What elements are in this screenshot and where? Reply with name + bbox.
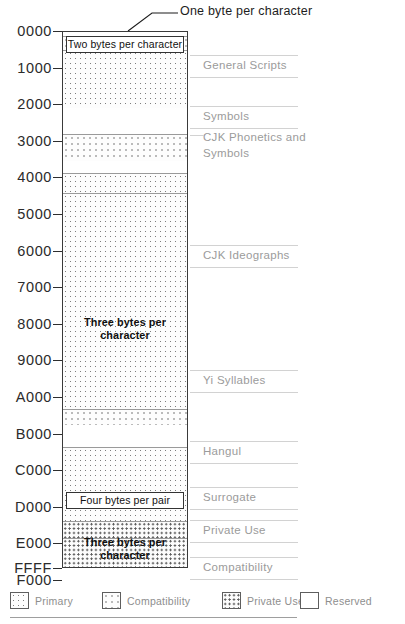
axis-tick-mark-C000 [53,470,62,471]
legend-label-private-use: Private Use [247,595,304,607]
region-leader-general-scripts-1 [190,77,298,78]
band-cjk-phonetics [63,173,187,193]
encoding-label-two-bytes: Two bytes per character [66,36,184,53]
band-yi-syllables [63,409,187,425]
legend: PrimaryCompatibilityPrivate UseReserved [10,592,400,614]
region-leader-yi-syllables-0 [190,370,298,371]
region-label-symbols: Symbols [203,109,249,125]
region-leader-hangul-1 [190,463,298,464]
axis-tick-mark-E000 [53,543,62,544]
region-leader-compatibility-1 [190,579,298,580]
encoding-label-three-bytes-main: Three bytes per character [62,316,188,341]
axis-tick-label-2000: 2000 [4,97,52,112]
band-reserved-1 [63,108,187,134]
region-label-cjk-phonetics: CJK Phonetics and Symbols [203,130,306,161]
legend-swatch-primary [10,592,29,609]
callout-one-byte-label: One byte per character [180,4,312,18]
axis-tick-label-E000: E000 [4,536,52,551]
band-hangul [63,447,187,521]
region-label-hangul: Hangul [203,444,241,460]
axis-tick-label-8000: 8000 [4,317,52,332]
axis-tick-label-3000: 3000 [4,134,52,149]
region-label-private-use: Private Use [203,523,266,539]
region-leader-yi-syllables-1 [190,392,298,393]
band-reserved-3 [63,425,187,447]
legend-item-primary: Primary [10,592,73,609]
region-leader-symbols-1 [190,128,298,129]
legend-item-private-use: Private Use [222,592,304,609]
legend-item-reserved: Reserved [300,592,372,609]
encoding-label-four-bytes-pair: Four bytes per pair [66,492,184,509]
axis-tick-label-B000: B000 [4,426,52,441]
region-leader-general-scripts-0 [190,55,298,56]
axis-tick-mark-D000 [53,507,62,508]
axis-tick-label-D000: D000 [4,500,52,515]
band-reserved-2 [63,161,187,173]
legend-divider [10,617,297,618]
axis-tick-label-C000: C000 [4,463,52,478]
encoding-label-three-bytes-private: Three bytes per character [62,536,188,561]
axis-tick-mark-3000 [53,141,62,142]
legend-swatch-compatibility [102,592,121,609]
axis-tick-label-7000: 7000 [4,280,52,295]
axis-tick-label-6000: 6000 [4,243,52,258]
region-leader-surrogate-1 [190,509,298,510]
region-leader-cjk-phonetics-0 [190,135,204,136]
axis-tick-label-4000: 4000 [4,170,52,185]
legend-item-compatibility: Compatibility [102,592,190,609]
axis-tick-label-FFFF: FFFF [4,561,52,576]
region-label-cjk-ideographs: CJK Ideographs [203,248,290,264]
legend-label-reserved: Reserved [325,595,372,607]
axis-tick-mark-A000 [53,397,62,398]
band-cjk-ideographs [63,193,187,409]
axis-tick-mark-8000 [53,324,62,325]
region-leader-cjk-ideographs-0 [190,245,298,246]
axis-tick-mark-F000 [53,580,62,581]
legend-swatch-reserved [300,592,319,609]
codespace-column [62,31,188,568]
axis-tick-mark-6000 [53,251,62,252]
axis-tick-mark-9000 [53,360,62,361]
region-label-surrogate: Surrogate [203,490,256,506]
region-leader-symbols-0 [190,106,298,107]
region-label-yi-syllables: Yi Syllables [203,373,266,389]
axis-tick-mark-0000 [53,31,62,32]
legend-label-primary: Primary [35,595,73,607]
region-leader-private-use-0 [190,520,298,521]
region-leader-compatibility-0 [190,557,298,558]
axis-tick-mark-FFFF [53,568,62,569]
legend-label-compatibility: Compatibility [127,595,190,607]
region-leader-cjk-ideographs-1 [190,267,298,268]
region-leader-private-use-1 [190,542,298,543]
region-leader-surrogate-0 [190,487,298,488]
axis-tick-label-0000: 0000 [4,24,52,39]
diagram-canvas: One byte per character 00001000200030004… [0,0,405,624]
band-general-scripts [63,50,187,108]
axis-tick-mark-7000 [53,287,62,288]
band-symbols [63,134,187,161]
region-leader-hangul-0 [190,441,298,442]
axis-tick-label-1000: 1000 [4,60,52,75]
axis-tick-mark-B000 [53,434,62,435]
axis-tick-label-A000: A000 [4,390,52,405]
axis-tick-mark-5000 [53,214,62,215]
region-label-compatibility: Compatibility [203,560,273,576]
axis-tick-label-9000: 9000 [4,353,52,368]
axis-tick-label-5000: 5000 [4,207,52,222]
region-label-general-scripts: General Scripts [203,58,287,74]
legend-swatch-private-use [222,592,241,609]
axis-tick-mark-2000 [53,104,62,105]
axis-tick-mark-4000 [53,177,62,178]
axis-tick-mark-1000 [53,68,62,69]
